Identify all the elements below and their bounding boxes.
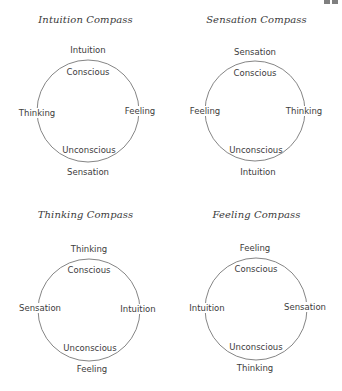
left-function-label: Intuition	[188, 303, 225, 313]
intuition-compass: Intuition Compass Intuition Conscious Th…	[0, 0, 171, 195]
right-function-label: Feeling	[124, 106, 156, 116]
right-function-label: Sensation	[283, 302, 327, 312]
sensation-compass: Sensation Compass Sensation Conscious Fe…	[171, 0, 342, 195]
feeling-compass: Feeling Compass Feeling Conscious Intuit…	[171, 195, 342, 390]
compass-circle	[171, 195, 342, 391]
conscious-label: Conscious	[65, 67, 110, 77]
compass-circle	[0, 0, 171, 195]
top-function-label: Intuition	[69, 45, 106, 55]
compass-circle	[0, 195, 171, 391]
left-function-label: Feeling	[189, 106, 221, 116]
right-function-label: Intuition	[119, 304, 156, 314]
right-function-label: Thinking	[285, 106, 323, 116]
unconscious-label: Unconscious	[228, 342, 283, 352]
top-function-label: Thinking	[70, 244, 108, 254]
unconscious-label: Unconscious	[62, 343, 117, 353]
bottom-function-label: Feeling	[76, 364, 108, 374]
unconscious-label: Unconscious	[228, 145, 283, 155]
top-function-label: Sensation	[233, 47, 277, 57]
thinking-compass: Thinking Compass Thinking Conscious Sens…	[0, 195, 171, 390]
left-function-label: Thinking	[18, 108, 56, 118]
conscious-label: Conscious	[232, 68, 277, 78]
compass-circle	[171, 0, 342, 195]
top-function-label: Feeling	[239, 243, 271, 253]
left-function-label: Sensation	[18, 303, 62, 313]
conscious-label: Conscious	[66, 265, 111, 275]
bottom-function-label: Sensation	[66, 167, 110, 177]
bottom-function-label: Thinking	[236, 363, 274, 373]
unconscious-label: Unconscious	[61, 145, 116, 155]
bottom-function-label: Intuition	[239, 167, 276, 177]
conscious-label: Conscious	[233, 264, 278, 274]
